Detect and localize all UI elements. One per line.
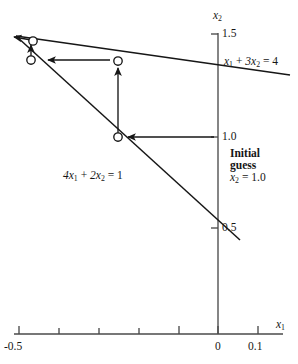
y-axis-title: x2	[213, 9, 222, 23]
iterate-marker-p2	[114, 57, 122, 65]
x-axis-title: x1	[276, 318, 285, 332]
x-axis-ticks	[19, 326, 258, 334]
equation-label-line1: x1 + 3x2 = 4	[224, 55, 278, 69]
iterate-marker-p1	[114, 133, 122, 141]
initial-guess-annotation: Initial guess x2 = 1.0	[230, 147, 266, 186]
initial-guess-value: x2 = 1.0	[230, 171, 266, 185]
y-tick-label-1-0: 1.0	[222, 130, 236, 142]
line-4x1-plus-2x2	[16, 36, 240, 240]
equation-label-line2: 4x1 + 2x2 = 1	[63, 169, 123, 183]
figure-canvas: x2 x1 1.5 1.0 0.5 -0.5 0 0.1 x1 + 3x2 = …	[0, 0, 298, 364]
initial-guess-line2: guess	[230, 159, 266, 171]
y-tick-label-0-5: 0.5	[222, 221, 236, 233]
iteration-arrows	[14, 37, 214, 137]
y-axis-ticks	[211, 34, 218, 228]
iterate-marker-p4	[29, 37, 37, 45]
x-tick-label-neg0-5: -0.5	[4, 340, 22, 352]
iterate-marker-p3	[27, 56, 35, 64]
x-tick-label-0-1: 0.1	[248, 340, 262, 352]
x-tick-label-0: 0	[215, 340, 221, 352]
initial-guess-line1: Initial	[230, 147, 266, 159]
y-tick-label-1-5: 1.5	[222, 27, 236, 39]
